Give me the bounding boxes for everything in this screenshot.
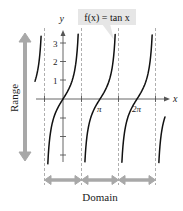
function-label: f(x) = tan x: [84, 12, 129, 24]
tan-graph: Range x y 3 2 1 π 2π f: [0, 0, 183, 211]
curve-branch-right: [159, 117, 165, 163]
y-tick-3: 3: [53, 39, 58, 49]
x-tick-pi: π: [97, 104, 102, 114]
range-label: Range: [8, 84, 20, 112]
y-tick-2: 2: [53, 57, 58, 67]
y-tick-1: 1: [53, 76, 58, 86]
curve-branch-left: [35, 36, 41, 81]
curve-branch-pi: [85, 35, 115, 162]
x-axis: [36, 97, 170, 102]
range-arrow: [19, 33, 31, 161]
x-axis-label: x: [172, 93, 178, 104]
y-axis-label: y: [59, 13, 65, 24]
domain-label: Domain: [82, 191, 118, 203]
domain-arrows: [45, 176, 156, 185]
